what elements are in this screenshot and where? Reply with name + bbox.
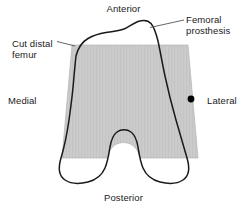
callout-cut-distal-femur-line2: femur — [12, 49, 37, 60]
callout-cut-distal-femur: Cut distalfemur — [12, 38, 53, 60]
callout-femoral-prosthesis: Femoralprosthesis — [186, 14, 230, 36]
callout-femoral-prosthesis-line1: Femoral — [186, 14, 222, 25]
label-lateral: Lateral — [207, 95, 237, 106]
label-posterior: Posterior — [0, 192, 247, 203]
figure-container: Anterior Posterior Medial Lateral Femora… — [0, 0, 247, 210]
cut-distal-femur-shape — [62, 45, 198, 158]
label-medial: Medial — [8, 95, 37, 106]
cut-distal-femur-leader-line — [57, 42, 75, 47]
callout-femoral-prosthesis-line2: prosthesis — [186, 25, 230, 36]
femoral-prosthesis-leader-line — [150, 20, 184, 28]
label-anterior: Anterior — [0, 3, 247, 14]
callout-cut-distal-femur-line1: Cut distal — [12, 38, 53, 49]
lateral-reference-point-marker — [188, 96, 195, 103]
